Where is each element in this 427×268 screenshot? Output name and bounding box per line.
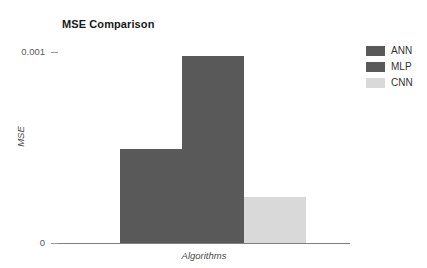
y-axis-tick-label-max: 0.001 (21, 46, 45, 57)
legend-item-cnn: CNN (366, 77, 413, 88)
y-axis-tick-mark-bottom (51, 243, 58, 244)
chart-legend: ANN MLP CNN (366, 45, 413, 88)
bar-mlp (182, 56, 244, 243)
legend-swatch-icon-cnn (366, 78, 385, 88)
legend-label-mlp: MLP (391, 61, 412, 72)
legend-item-ann: ANN (366, 45, 413, 56)
x-axis-line (58, 243, 350, 244)
plot-area (58, 52, 350, 243)
legend-item-mlp: MLP (366, 61, 413, 72)
legend-swatch-icon-mlp (366, 62, 385, 72)
legend-swatch-icon-ann (366, 46, 385, 56)
y-axis-title: MSE (15, 107, 26, 167)
mse-comparison-chart: MSE Comparison 0.001 0 MSE Algorithms AN… (0, 0, 427, 268)
y-axis-tick-label-min: 0 (40, 237, 45, 248)
bar-cnn (244, 197, 306, 243)
legend-label-ann: ANN (391, 45, 412, 56)
bar-ann (120, 149, 182, 243)
legend-label-cnn: CNN (391, 77, 413, 88)
x-axis-title: Algorithms (58, 250, 350, 261)
chart-title: MSE Comparison (62, 18, 154, 30)
y-axis-tick-mark-top (51, 52, 58, 53)
